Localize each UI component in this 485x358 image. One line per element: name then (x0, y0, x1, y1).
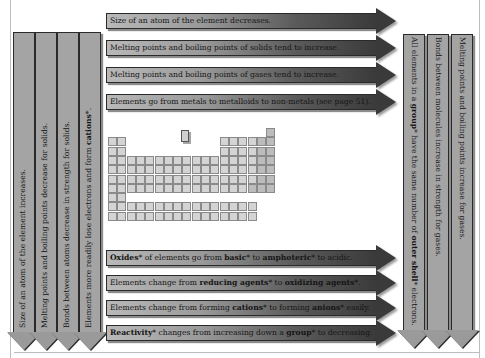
left-arrow-4: Elements more readily lose electrons and… (79, 32, 101, 350)
element-cell (127, 156, 136, 165)
arrow-label: Size of an atom of the element decreases… (110, 13, 271, 29)
element-cell (257, 165, 266, 174)
element-cell (164, 212, 173, 221)
arrow-down-icon (73, 332, 107, 350)
element-cell (266, 184, 275, 193)
text-run: Elements more readily lose electrons and… (84, 145, 93, 328)
element-cell (257, 175, 266, 184)
element-cell (108, 202, 117, 211)
element-cell (192, 212, 201, 221)
element-cell (266, 137, 275, 146)
element-cell (117, 184, 126, 193)
element-cell (192, 175, 201, 184)
element-cell (229, 184, 238, 193)
element-cell (145, 156, 154, 165)
text-run: * to (246, 253, 262, 262)
arrow-right-icon (376, 270, 396, 296)
arrow-down-icon (445, 330, 479, 348)
element-cell (173, 175, 182, 184)
element-cell (229, 165, 238, 174)
element-cell (108, 175, 117, 184)
element-cell (248, 175, 257, 184)
element-cell (182, 165, 191, 174)
arrow-label: Bonds between molecules increase in stre… (434, 37, 443, 257)
element-cell (220, 212, 229, 221)
element-cell (164, 156, 173, 165)
element-cell (210, 165, 219, 174)
element-cell (192, 202, 201, 211)
element-cell (127, 184, 136, 193)
element-cell (266, 156, 275, 165)
bold-term: cations (232, 303, 263, 312)
arrow-label: Melting points and boiling points decrea… (40, 123, 49, 328)
element-cell (117, 175, 126, 184)
element-cell (173, 165, 182, 174)
element-cell (248, 156, 257, 165)
arrow-right-icon (376, 245, 396, 271)
element-cell (238, 212, 247, 221)
element-cell (155, 165, 164, 174)
element-cell (220, 184, 229, 193)
element-cell (192, 156, 201, 165)
element-cell (108, 165, 117, 174)
element-cell (238, 175, 247, 184)
element-cell (220, 137, 229, 146)
arrow-label: Elements more readily lose electrons and… (84, 108, 93, 328)
element-cell (136, 184, 145, 193)
element-cell (127, 212, 136, 221)
bold-term: reducing agents (199, 278, 268, 287)
element-cell (108, 193, 117, 202)
arrow-label: Reactivity* changes from increasing down… (110, 325, 372, 341)
element-cell (220, 165, 229, 174)
element-cell (238, 202, 247, 211)
text-run: * to acidic. (311, 253, 352, 262)
element-cell (127, 175, 136, 184)
text-run: * electrons. (410, 281, 419, 325)
element-cell (229, 202, 238, 211)
text-run: * changes from increasing down a (152, 328, 286, 337)
text-run: Elements change from (110, 278, 199, 287)
element-cell (248, 137, 257, 146)
element-cell (108, 212, 117, 221)
right-border-line (479, 0, 480, 358)
element-cell (108, 147, 117, 156)
arrow-label: Melting points and boiling points of gas… (110, 67, 339, 83)
element-cell (257, 147, 266, 156)
top-arrow-3: Melting points and boiling points of gas… (106, 62, 396, 88)
element-cell (238, 137, 247, 146)
text-run: Size of an atom of the element increases… (18, 169, 27, 328)
element-cell (182, 175, 191, 184)
top-arrow-4: Elements go from metals to metalloids to… (106, 89, 396, 115)
element-cell (182, 156, 191, 165)
bottom-arrow-4: Reactivity* changes from increasing down… (106, 320, 396, 346)
element-cell (201, 156, 210, 165)
element-cell (136, 165, 145, 174)
text-run: * easily. (340, 303, 370, 312)
arrow-right-icon (376, 8, 396, 34)
element-cell (257, 156, 266, 165)
element-cell (220, 147, 229, 156)
element-cell (248, 202, 257, 211)
element-cell (164, 165, 173, 174)
text-run: All elements in a (410, 37, 419, 104)
element-cell (155, 175, 164, 184)
element-cell (108, 137, 117, 146)
periodic-table (108, 128, 364, 240)
element-cell (108, 184, 117, 193)
element-cell (257, 184, 266, 193)
element-cell (136, 202, 145, 211)
element-cell (164, 202, 173, 211)
element-cell (201, 184, 210, 193)
text-run: * of elements go from (138, 253, 224, 262)
element-cell (266, 128, 275, 137)
element-cell (145, 175, 154, 184)
element-cell (192, 165, 201, 174)
bold-term: Reactivity (110, 328, 152, 337)
element-cell (145, 212, 154, 221)
text-run: Bonds between atoms decrease in strength… (62, 121, 71, 328)
element-cell (173, 212, 182, 221)
element-cell (201, 175, 210, 184)
text-run: Bonds between molecules increase in stre… (434, 37, 443, 257)
element-cell (248, 165, 257, 174)
element-cell (210, 212, 219, 221)
